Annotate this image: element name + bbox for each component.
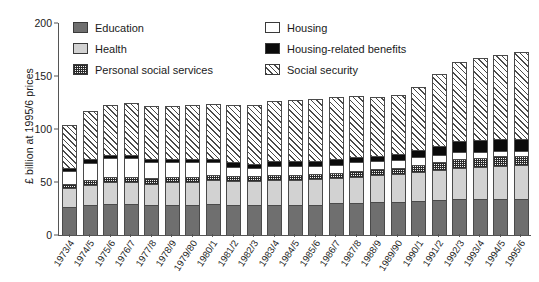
bar-segment-social-security (248, 106, 261, 165)
bar-segment-health (392, 175, 405, 203)
bar-segment-housing-related-benefits (433, 147, 446, 156)
bar-segment-health (289, 181, 302, 205)
bar-1993-4 (473, 58, 488, 235)
bar-segment-housing (309, 167, 322, 175)
legend-label: Personal social services (95, 64, 213, 76)
bar-segment-housing-related-benefits (474, 141, 487, 153)
legend-label: Housing (287, 22, 327, 34)
y-axis-ticks: 050100150200 (26, 18, 58, 240)
housing-related-benefits-swatch (265, 43, 280, 54)
bar-segment-housing (330, 166, 343, 174)
bar-segment-social-security (145, 107, 158, 161)
bar-segment-health (350, 178, 363, 204)
bar-segment-housing (412, 158, 425, 165)
bar-segment-housing-related-benefits (515, 140, 528, 152)
bar-1973-4 (62, 125, 77, 235)
bar-1987-8 (349, 96, 364, 235)
health-swatch (73, 43, 88, 54)
bar-segment-personal-social-services (453, 160, 466, 168)
bar-segment-housing (453, 153, 466, 160)
bar-segment-housing (268, 167, 281, 176)
bar-segment-personal-social-services (474, 159, 487, 167)
bar-segment-health (145, 185, 158, 206)
bar-segment-health (330, 179, 343, 204)
bar-segment-health (227, 182, 240, 205)
bar-1991-2 (432, 74, 447, 235)
bar-segment-health (248, 182, 261, 205)
bar-segment-health (268, 181, 281, 205)
legend-item-health: Health (73, 43, 265, 55)
bar-segment-social-security (453, 63, 466, 142)
bar-segment-social-security (125, 104, 138, 157)
bar-1995-6 (514, 52, 529, 235)
bar-segment-social-security (227, 106, 240, 164)
bar-segment-social-security (186, 106, 199, 161)
legend-label: Housing-related benefits (287, 43, 406, 55)
bar-segment-health (515, 166, 528, 200)
legend-label: Education (95, 22, 144, 34)
bar-segment-housing-related-benefits (412, 151, 425, 158)
x-axis-tick-label-text: 1973/4 (51, 238, 76, 268)
bar-1992-3 (452, 62, 467, 235)
bar-segment-social-security (350, 97, 363, 158)
bar-segment-social-security (515, 53, 528, 141)
bar-segment-housing (248, 169, 261, 177)
bar-segment-health (309, 180, 322, 205)
bar-segment-housing (289, 167, 302, 176)
bar-segment-housing (84, 164, 97, 182)
legend-item-personal-social-services: Personal social services (73, 64, 265, 76)
bar-segment-housing (104, 159, 117, 178)
bar-segment-health (412, 173, 425, 202)
y-axis-tick-label: 100 (34, 123, 52, 135)
y-axis-tick-label: 150 (34, 70, 52, 82)
legend-label: Health (95, 43, 127, 55)
bar-segment-health (125, 183, 138, 204)
bar-segment-social-security (330, 98, 343, 160)
bar-segment-health (63, 189, 76, 208)
x-axis-label-cell: 1995/6 (513, 236, 528, 282)
bar-segment-social-security (392, 96, 405, 155)
bar-segment-social-security (63, 126, 76, 169)
bar-segment-housing (371, 162, 384, 169)
legend-item-housing-related-benefits: Housing-related benefits (265, 43, 445, 55)
bar-segment-social-security (433, 75, 446, 147)
bar-segment-housing (186, 163, 199, 178)
bar-segment-health (474, 168, 487, 201)
bar-1994-5 (493, 55, 508, 235)
bar-segment-social-security (474, 59, 487, 141)
bar-segment-health (104, 183, 117, 204)
legend-item-education: Education (73, 22, 265, 34)
bar-segment-social-security (207, 105, 220, 161)
legend-label: Social security (287, 64, 358, 76)
y-axis-tick-label: 200 (34, 17, 52, 29)
bar-segment-social-security (412, 88, 425, 151)
x-axis-labels: 1973/41974/51975/61976/71977/81978/91979… (58, 236, 530, 282)
bar-segment-health (433, 171, 446, 202)
personal-social-services-swatch (73, 64, 88, 75)
bar-segment-health (494, 167, 507, 201)
bar-segment-personal-social-services (515, 157, 528, 166)
education-swatch (73, 22, 88, 33)
bar-segment-housing (63, 172, 76, 185)
bar-segment-housing (433, 156, 446, 163)
stacked-bar-chart: £ billion at 1995/6 prices 050100150200 … (0, 0, 539, 282)
legend-item-social-security: Social security (265, 64, 445, 76)
y-axis-tick-label: 50 (40, 176, 52, 188)
bar-segment-housing (125, 159, 138, 178)
bar-segment-social-security (104, 106, 117, 156)
bar-segment-health (166, 183, 179, 205)
bar-segment-personal-social-services (433, 163, 446, 170)
bar-segment-housing (207, 163, 220, 176)
bar-segment-health (371, 176, 384, 203)
y-axis-tick-label: 0 (46, 229, 52, 241)
bar-segment-social-security (268, 102, 281, 162)
bar-segment-housing-related-benefits (453, 142, 466, 153)
bar-segment-housing-related-benefits (494, 140, 507, 152)
legend-item-housing: Housing (265, 22, 445, 34)
bar-segment-housing (145, 163, 158, 179)
bar-segment-health (453, 169, 466, 201)
bar-segment-social-security (289, 101, 302, 162)
housing-swatch (265, 22, 280, 33)
bar-segment-health (84, 186, 97, 206)
bar-segment-housing (350, 163, 363, 171)
